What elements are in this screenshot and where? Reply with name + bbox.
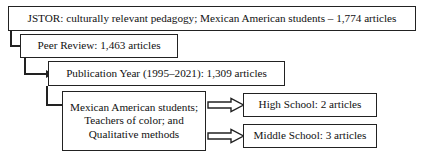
connector-criteria-to-high-school [207,97,245,113]
node-database-search-label: JSTOR: culturally relevant pedagogy; Mex… [28,12,397,25]
node-high-school: High School: 2 articles [243,93,377,117]
node-middle-school: Middle School: 3 articles [243,124,377,148]
block-arrow-right-icon [207,97,245,113]
node-publication-year: Publication Year (1995–2021): 1,309 arti… [48,61,285,86]
criteria-line-3: Qualitative methods [70,128,198,141]
node-inclusion-criteria-text: Mexican American students; Teachers of c… [70,101,198,141]
node-high-school-label: High School: 2 articles [259,98,362,111]
criteria-line-1: Mexican American students; [70,101,198,114]
connector-horizontal-segment [24,73,48,75]
criteria-line-2: Teachers of color; and [70,114,198,127]
connector-vertical-segment [46,86,48,106]
node-database-search: JSTOR: culturally relevant pedagogy; Mex… [8,6,416,31]
node-peer-review-label: Peer Review: 1,463 articles [37,39,160,52]
node-inclusion-criteria: Mexican American students; Teachers of c… [62,91,206,151]
block-arrow-right-icon [207,128,245,144]
node-peer-review: Peer Review: 1,463 articles [20,34,178,58]
node-publication-year-label: Publication Year (1995–2021): 1,309 arti… [66,67,267,80]
node-middle-school-label: Middle School: 3 articles [254,129,367,142]
flowchart-canvas: JSTOR: culturally relevant pedagogy; Mex… [0,0,427,157]
connector-criteria-to-middle-school [207,128,245,144]
